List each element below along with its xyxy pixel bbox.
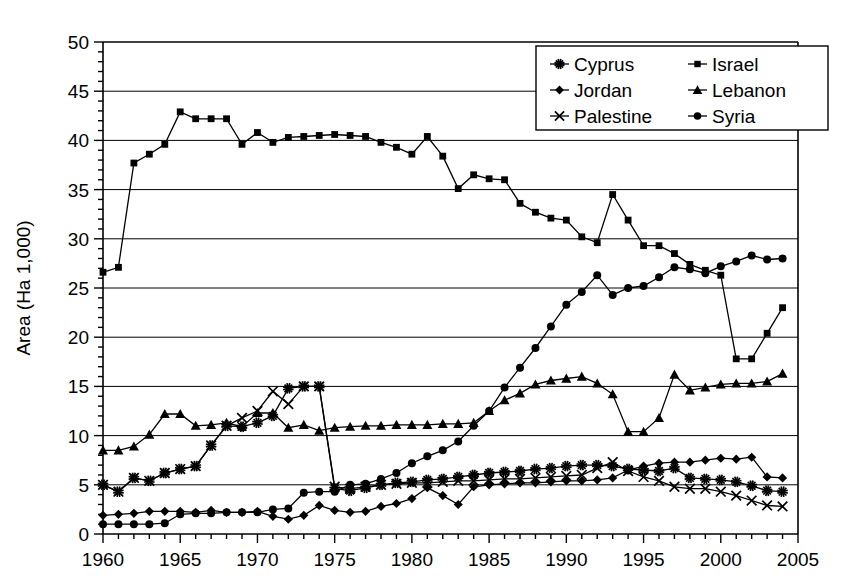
data-point <box>237 413 247 423</box>
data-point <box>608 389 618 398</box>
data-point <box>129 509 138 518</box>
data-point <box>100 269 107 276</box>
data-point <box>346 481 354 489</box>
data-point <box>717 272 724 279</box>
data-point <box>424 133 431 140</box>
series-israel <box>100 108 786 362</box>
data-point <box>114 520 122 528</box>
x-tick-label: 1965 <box>159 549 201 570</box>
data-point <box>300 489 308 497</box>
data-point <box>501 176 508 183</box>
y-tick-label: 50 <box>68 32 89 53</box>
data-point <box>577 372 587 381</box>
data-point <box>746 481 756 491</box>
data-point <box>609 191 616 198</box>
data-point <box>346 508 355 517</box>
x-tick-label: 1960 <box>82 549 124 570</box>
data-point <box>439 153 446 160</box>
legend-label: Israel <box>712 54 758 75</box>
legend-label: Syria <box>712 106 756 127</box>
data-point <box>315 488 323 496</box>
data-point <box>701 269 709 277</box>
data-point <box>593 475 602 484</box>
data-point <box>547 322 555 330</box>
data-point <box>407 494 416 503</box>
data-point <box>347 132 354 139</box>
data-point <box>130 160 137 167</box>
data-point <box>252 418 262 428</box>
data-point <box>160 468 170 478</box>
chart-container: 0510152025303540455019601965197019751980… <box>0 0 861 588</box>
y-tick-label: 20 <box>68 327 89 348</box>
y-axis-title: Area (Ha 1,000) <box>13 220 34 355</box>
data-point <box>516 364 524 372</box>
data-point <box>299 420 309 429</box>
line-chart: 0510152025303540455019601965197019751980… <box>0 0 861 588</box>
data-point <box>239 141 246 148</box>
data-point <box>732 455 741 464</box>
data-point <box>408 151 415 158</box>
data-point <box>500 395 510 404</box>
data-point <box>362 480 370 488</box>
data-point <box>592 378 602 387</box>
x-tick-label: 1995 <box>622 549 664 570</box>
data-point <box>377 475 385 483</box>
data-point <box>439 446 447 454</box>
data-point <box>486 175 493 182</box>
data-point <box>563 217 570 224</box>
data-point <box>470 422 478 430</box>
data-point <box>701 456 710 465</box>
data-point <box>655 273 663 281</box>
data-point <box>362 133 369 140</box>
y-tick-label: 5 <box>78 475 89 496</box>
data-point <box>748 252 756 260</box>
data-point <box>331 488 339 496</box>
data-point <box>207 509 215 517</box>
data-point <box>206 441 216 451</box>
data-point <box>145 507 154 516</box>
data-point <box>485 480 494 489</box>
x-tick-label: 2005 <box>777 549 819 570</box>
data-point <box>238 508 246 516</box>
data-point <box>500 479 509 488</box>
data-point <box>253 508 261 516</box>
data-point <box>315 501 324 510</box>
data-point <box>578 233 585 240</box>
data-point <box>316 132 323 139</box>
data-point <box>778 369 788 378</box>
data-point <box>392 469 400 477</box>
data-point <box>470 171 477 178</box>
y-tick-label: 30 <box>68 229 89 250</box>
x-tick-label: 1975 <box>314 549 356 570</box>
data-point <box>732 257 740 265</box>
x-tick-label: 1985 <box>468 549 510 570</box>
data-point <box>299 511 308 520</box>
data-point <box>99 520 107 528</box>
data-point <box>378 139 385 146</box>
data-point <box>748 355 755 362</box>
y-tick-label: 15 <box>68 376 89 397</box>
data-point <box>778 473 787 482</box>
data-point <box>747 496 757 506</box>
data-point <box>146 151 153 158</box>
data-point <box>254 129 261 136</box>
data-point <box>485 407 493 415</box>
data-point <box>223 115 230 122</box>
data-point <box>376 502 385 511</box>
data-point <box>501 383 509 391</box>
data-point <box>762 376 772 385</box>
data-point <box>733 355 740 362</box>
data-point <box>593 271 601 279</box>
data-point <box>114 510 123 519</box>
data-point <box>671 250 678 257</box>
data-point <box>694 112 702 120</box>
data-point <box>686 265 694 273</box>
series-lebanon <box>98 369 788 455</box>
data-point <box>532 209 539 216</box>
legend-label: Lebanon <box>712 80 786 101</box>
data-point <box>763 255 771 263</box>
data-point <box>654 459 663 468</box>
data-point <box>654 413 664 422</box>
data-point <box>716 454 725 463</box>
data-point <box>531 478 540 487</box>
